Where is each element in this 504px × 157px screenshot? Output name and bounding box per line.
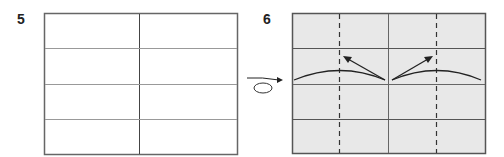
step-5-paper [45,14,238,155]
step-6-paper [293,14,486,154]
turn-over-icon [247,77,283,93]
origami-diagram [0,0,504,157]
